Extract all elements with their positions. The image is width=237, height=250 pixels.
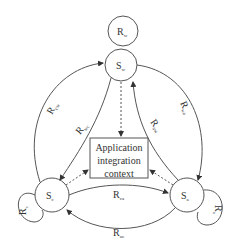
- context-box-label: Application integration context: [90, 141, 148, 180]
- edge-sa-context: [150, 170, 173, 185]
- diagram-canvas: Rw Sw Sc Sa Rcw Rwc Rwa Raw Rca Rac Rc R…: [0, 0, 237, 250]
- label-rcw: Rcw: [44, 99, 61, 116]
- label-rca: Rca: [113, 189, 125, 201]
- context-line-1: Application: [90, 141, 148, 154]
- label-raw: Raw: [148, 117, 165, 134]
- node-sc: [35, 178, 69, 212]
- node-sa: [170, 178, 204, 212]
- label-rwa: Rwa: [177, 99, 193, 116]
- context-line-3: context: [90, 167, 148, 180]
- state-transition-diagram: Rw Sw Sc Sa Rcw Rwc Rwa Raw Rca Rac Rc R…: [0, 0, 237, 250]
- label-ra: Ra: [212, 205, 224, 215]
- edge-sc-context: [66, 170, 88, 185]
- context-line-2: integration: [90, 154, 148, 167]
- label-rw: Rw: [117, 26, 128, 38]
- edge-rac: [67, 208, 175, 229]
